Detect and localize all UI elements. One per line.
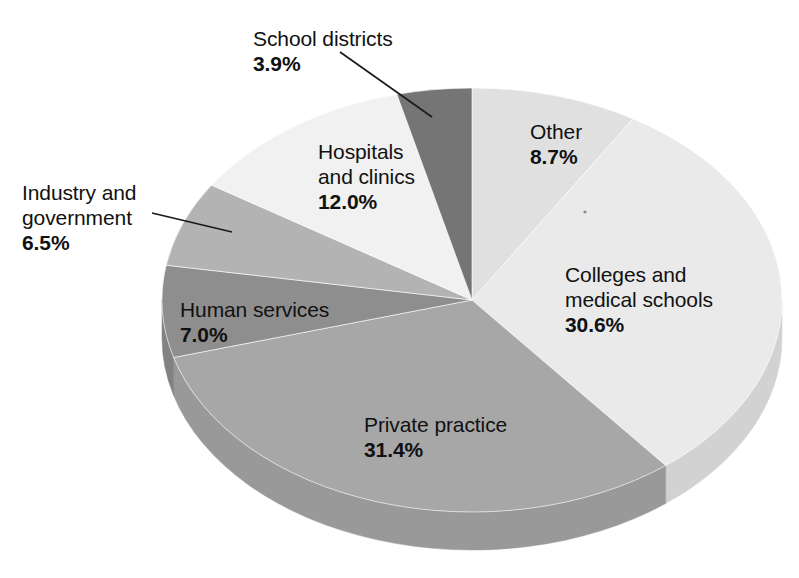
- slice-label-percent: 12.0%: [318, 189, 415, 214]
- slice-label-percent: 3.9%: [253, 51, 393, 76]
- slice-label-percent: 31.4%: [364, 437, 507, 462]
- slice-label-private-practice: Private practice 31.4%: [364, 412, 507, 462]
- slice-label-percent: 7.0%: [180, 322, 329, 347]
- slice-label-name: Private practice: [364, 412, 507, 437]
- slice-label-other: Other 8.7%: [530, 119, 582, 169]
- slice-label-name-line1: Colleges and: [565, 262, 713, 287]
- slice-label-percent: 6.5%: [22, 230, 136, 255]
- slice-label-human-services: Human services 7.0%: [180, 297, 329, 347]
- slice-label-industry-and-government: Industry and government 6.5%: [22, 180, 136, 255]
- slice-label-percent: 8.7%: [530, 144, 582, 169]
- slice-label-name: Human services: [180, 297, 329, 322]
- slice-label-name: School districts: [253, 26, 393, 51]
- slice-label-name-line2: and clinics: [318, 164, 415, 189]
- slice-label-school-districts: School districts 3.9%: [253, 26, 393, 76]
- slice-label-name-line1: Hospitals: [318, 139, 415, 164]
- slice-label-name-line2: medical schools: [565, 287, 713, 312]
- slice-label-name-line2: government: [22, 205, 136, 230]
- slice-label-colleges-and-medical-schools: Colleges and medical schools 30.6%: [565, 262, 713, 337]
- slice-label-name-line1: Industry and: [22, 180, 136, 205]
- scan-speck: [583, 210, 586, 213]
- slice-label-percent: 30.6%: [565, 312, 713, 337]
- page-bottom-margin: [0, 574, 799, 578]
- slice-label-hospitals-and-clinics: Hospitals and clinics 12.0%: [318, 139, 415, 214]
- pie-chart: School districts 3.9% Other 8.7% College…: [0, 0, 799, 578]
- slice-label-name: Other: [530, 119, 582, 144]
